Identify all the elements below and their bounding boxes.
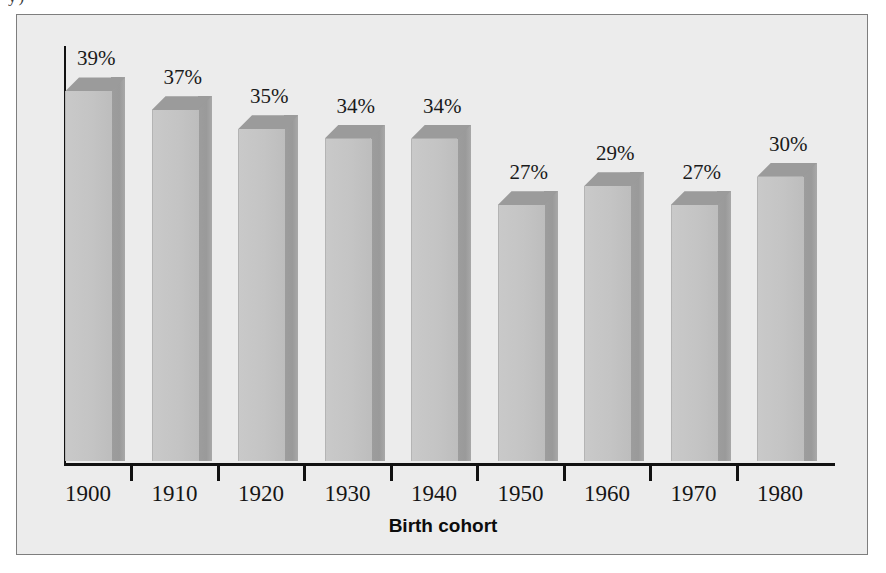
bar-front-face xyxy=(65,91,112,461)
x-axis-tick-1 xyxy=(217,466,220,481)
bar-side-face xyxy=(717,191,731,461)
bar-value-label-1950: 27% xyxy=(510,160,596,185)
bar-side-face xyxy=(630,172,644,461)
crop-artifact: y) xyxy=(8,0,38,9)
x-tick-label-1900: 1900 xyxy=(45,481,131,507)
bar-value-label-1920: 35% xyxy=(250,84,336,109)
x-axis-tick-0 xyxy=(130,466,133,481)
bar-front-face xyxy=(671,205,718,461)
x-axis-tick-2 xyxy=(303,466,306,481)
bar-front-face xyxy=(584,186,631,461)
bar-front-face xyxy=(757,177,804,461)
x-tick-label-1920: 1920 xyxy=(218,481,304,507)
bar-side-face xyxy=(457,125,471,461)
bar-value-label-1930: 34% xyxy=(337,94,423,119)
bar-value-label-1940: 34% xyxy=(423,94,509,119)
bar-front-face xyxy=(152,110,199,461)
x-tick-label-1950: 1950 xyxy=(478,481,564,507)
bar-front-face xyxy=(498,205,545,461)
x-axis-tick-5 xyxy=(563,466,566,481)
chart-figure-frame: Birth cohort 39%190037%191035%192034%193… xyxy=(16,14,868,555)
x-axis-tick-4 xyxy=(476,466,479,481)
x-tick-label-1930: 1930 xyxy=(305,481,391,507)
x-axis-tick-3 xyxy=(390,466,393,481)
bar-side-face xyxy=(371,125,385,461)
x-tick-label-1910: 1910 xyxy=(132,481,218,507)
x-axis-tick-6 xyxy=(649,466,652,481)
bar-value-label-1900: 39% xyxy=(77,46,163,71)
x-axis-line xyxy=(64,463,835,466)
bar-front-face xyxy=(411,139,458,461)
bar-value-label-1960: 29% xyxy=(596,141,682,166)
x-tick-label-1980: 1980 xyxy=(737,481,823,507)
x-axis-title: Birth cohort xyxy=(17,515,869,537)
x-tick-label-1970: 1970 xyxy=(651,481,737,507)
bar-value-label-1970: 27% xyxy=(683,160,769,185)
x-axis-tick-7 xyxy=(736,466,739,481)
x-tick-label-1960: 1960 xyxy=(564,481,650,507)
bar-front-face xyxy=(325,139,372,461)
bar-side-face xyxy=(284,115,298,461)
bar-value-label-1910: 37% xyxy=(164,65,250,90)
x-tick-label-1940: 1940 xyxy=(391,481,477,507)
bar-value-label-1980: 30% xyxy=(769,132,855,157)
crop-artifact-text: y) xyxy=(8,0,26,7)
bar-side-face xyxy=(111,77,125,461)
bar-front-face xyxy=(238,129,285,461)
bar-side-face xyxy=(198,96,212,461)
bar-chart-plot-area: Birth cohort 39%190037%191035%192034%193… xyxy=(17,15,867,554)
bar-side-face xyxy=(803,163,817,461)
bar-side-face xyxy=(544,191,558,461)
